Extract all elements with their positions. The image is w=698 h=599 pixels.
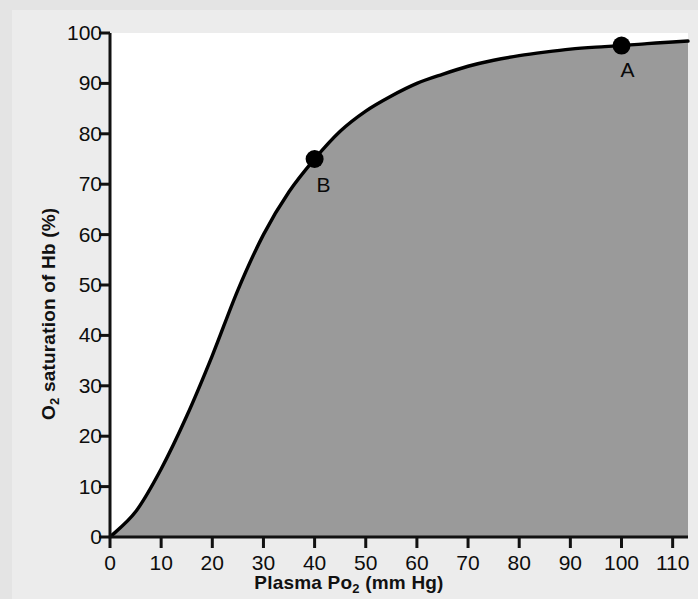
x-tick-label: 70 <box>456 551 479 575</box>
plot-canvas <box>0 0 698 599</box>
x-axis-ticks <box>110 537 673 548</box>
y-tick-label: 90 <box>30 71 102 95</box>
figure-root: O2 saturation of Hb (%) Plasma Po2 (mm H… <box>0 0 698 599</box>
x-tick-label: 80 <box>508 551 531 575</box>
x-axis-title: Plasma Po2 (mm Hg) <box>0 572 698 596</box>
x-tick-label: 60 <box>405 551 428 575</box>
x-tick-label: 30 <box>252 551 275 575</box>
y-tick-label: 70 <box>30 172 102 196</box>
x-axis-title-tail: (mm Hg) <box>360 572 444 593</box>
data-point-label-b: B <box>317 173 331 197</box>
y-tick-label: 30 <box>30 374 102 398</box>
y-axis-title-base: O <box>38 405 59 420</box>
data-point-marker-b <box>306 150 324 168</box>
x-tick-label: 20 <box>201 551 224 575</box>
y-axis-title-subscript: 2 <box>47 398 62 405</box>
x-tick-label: 100 <box>604 551 639 575</box>
y-tick-label: 60 <box>30 223 102 247</box>
x-tick-label: 40 <box>303 551 326 575</box>
y-tick-label: 50 <box>30 273 102 297</box>
y-tick-label: 20 <box>30 424 102 448</box>
data-point-marker-a <box>613 37 631 55</box>
y-tick-label: 0 <box>30 525 102 549</box>
x-tick-label: 10 <box>149 551 172 575</box>
x-axis <box>110 537 688 548</box>
data-point-label-a: A <box>620 58 634 82</box>
y-tick-label: 10 <box>30 475 102 499</box>
y-tick-label: 100 <box>30 21 102 45</box>
y-tick-label: 40 <box>30 323 102 347</box>
x-tick-label: 110 <box>656 551 689 575</box>
x-tick-label: 90 <box>559 551 582 575</box>
y-tick-label: 80 <box>30 122 102 146</box>
x-tick-label: 0 <box>104 551 116 575</box>
x-axis-title-base: Plasma Po <box>254 572 352 593</box>
x-tick-label: 50 <box>354 551 377 575</box>
x-axis-title-subscript: 2 <box>352 581 359 596</box>
